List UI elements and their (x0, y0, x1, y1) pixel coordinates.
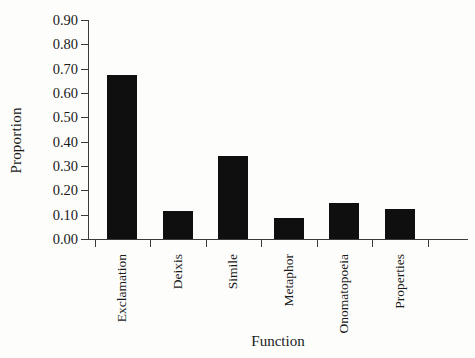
y-axis-tick-label: 0.80 (34, 37, 78, 52)
y-axis-tick (81, 117, 88, 118)
y-axis-tick-label: 0.10 (34, 207, 78, 222)
y-axis-tick (81, 20, 88, 21)
bar-chart-figure: Proportion 0.000.100.200.300.400.500.600… (0, 0, 475, 358)
x-axis-title: Function (88, 333, 468, 350)
x-axis-tick (428, 240, 429, 247)
y-axis-tick (81, 93, 88, 94)
bar (274, 218, 304, 239)
x-axis-tick-label-text: Deixis (171, 254, 185, 289)
x-axis-tick-label-text: Simile (227, 254, 241, 289)
y-axis-line (88, 20, 89, 240)
x-axis-tick (372, 240, 373, 247)
bar (329, 203, 359, 240)
y-axis-tick-label: 0.90 (34, 13, 78, 28)
y-axis-tick-label: 0.20 (34, 183, 78, 198)
y-axis-tick-label: 0.50 (34, 110, 78, 125)
y-axis-tick (81, 69, 88, 70)
bar (163, 211, 193, 239)
y-axis-tick-label: 0.40 (34, 134, 78, 149)
x-axis-line (88, 239, 468, 240)
y-axis-tick-label: 0.60 (34, 86, 78, 101)
x-axis-tick (206, 240, 207, 247)
y-axis-tick (81, 142, 88, 143)
x-axis-tick (261, 240, 262, 247)
bar (385, 209, 415, 239)
y-axis-tick (81, 215, 88, 216)
x-axis-tick-label-text: Metaphor (282, 254, 296, 306)
y-axis-tick (81, 239, 88, 240)
y-axis-tick-label: 0.00 (34, 232, 78, 247)
y-axis-title-text: Proportion (8, 107, 25, 173)
x-axis-tick-label-text: Properties (393, 254, 407, 309)
x-axis-tick (317, 240, 318, 247)
x-axis-tick-label-text: Onomatopoeia (338, 254, 352, 333)
y-axis-tick (81, 166, 88, 167)
y-axis-tick-label: 0.30 (34, 159, 78, 174)
y-axis-tick (81, 190, 88, 191)
y-axis-tick-label: 0.70 (34, 61, 78, 76)
y-axis-tick (81, 44, 88, 45)
x-axis-tick (95, 240, 96, 247)
y-axis-title: Proportion (4, 60, 28, 220)
bar (218, 156, 248, 239)
bar (107, 75, 137, 239)
x-axis-tick-label-text: Exclamation (116, 254, 130, 322)
x-axis-title-text: Function (251, 333, 304, 349)
x-axis-tick (150, 240, 151, 247)
